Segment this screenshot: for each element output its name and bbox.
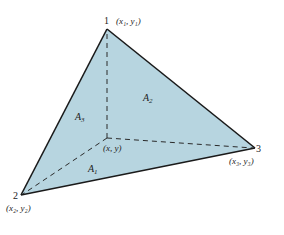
vertex-2-coord-label: (x₂, y₂)	[6, 203, 31, 213]
vertex-3-coord-label: (x₃, y₃)	[229, 156, 254, 166]
vertex-2-label: 2	[13, 190, 18, 201]
vertex-1-coord-label: (x₁, y₁)	[116, 16, 141, 26]
vertex-1-label: 1	[104, 15, 109, 26]
interior-point-label: (x, y)	[103, 143, 121, 153]
vertex-3-label: 3	[256, 143, 261, 154]
triangle-area-diagram: 1 (x₁, y₁) 2 (x₂, y₂) 3 (x₃, y₃) (x, y) …	[0, 0, 284, 235]
